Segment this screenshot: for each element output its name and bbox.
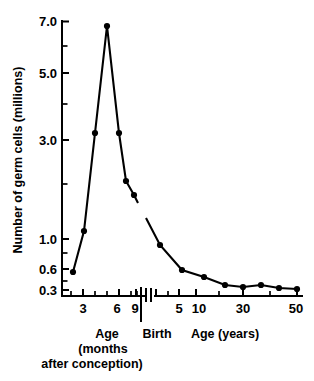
y-tick-label-0-3: 0.3 — [39, 283, 57, 298]
germ-cell-chart-figure: 7.0 5.0 3.0 1.0 0.6 0.3 Number of germ c… — [0, 0, 314, 381]
data-point-17-years — [222, 282, 228, 288]
data-point-6-months — [116, 130, 122, 136]
data-point-birth-years — [157, 242, 163, 248]
data-point-29-years — [258, 282, 264, 288]
data-point-7-months — [123, 178, 129, 184]
x-tick-label-50-years: 50 — [289, 301, 303, 316]
y-tick-label-1-0: 1.0 — [39, 232, 57, 247]
caption-age-months-line1: Age — [95, 327, 119, 341]
y-axis-title: Number of germ cells (millions) — [11, 67, 25, 254]
x-tick-label-30-years: 30 — [236, 301, 250, 316]
data-point-8-months — [131, 192, 137, 198]
y-tick-label-0-6: 0.6 — [39, 262, 57, 277]
x-tick-label-9-months: 9 — [131, 301, 138, 316]
data-point-50-years — [294, 286, 300, 292]
caption-age-years: Age (years) — [191, 327, 259, 341]
x-tick-label-10-years: 10 — [192, 301, 206, 316]
data-point-5-months — [104, 23, 110, 29]
y-tick-label-3-0: 3.0 — [39, 133, 57, 148]
chart-canvas: 7.0 5.0 3.0 1.0 0.6 0.3 Number of germ c… — [0, 0, 314, 381]
x-axis: 3 6 9 5 10 30 50 — [62, 287, 303, 322]
fetal-curve-line — [73, 26, 138, 272]
series-postnatal-germ-cells — [146, 218, 300, 292]
data-point-3-months — [81, 228, 87, 234]
x-tick-label-3-months: 3 — [79, 301, 86, 316]
x-tick-label-5-years: 5 — [175, 301, 182, 316]
data-point-24-years — [240, 284, 246, 290]
data-point-4-months — [92, 130, 98, 136]
series-fetal-germ-cells — [70, 23, 138, 275]
data-point-34-years — [276, 285, 282, 291]
x-tick-label-6-months: 6 — [113, 301, 120, 316]
postnatal-curve-line — [146, 218, 297, 289]
y-tick-label-5-0: 5.0 — [39, 66, 57, 81]
caption-birth: Birth — [142, 327, 171, 341]
y-axis: 7.0 5.0 3.0 1.0 0.6 0.3 Number of germ c… — [11, 14, 69, 298]
y-tick-label-7-0: 7.0 — [39, 14, 57, 29]
data-point-2-months — [70, 269, 76, 275]
caption-age-months-line2: (months — [78, 342, 127, 356]
caption-age-months-line3: after conception) — [41, 357, 142, 371]
data-point-7-years — [179, 267, 185, 273]
x-axis-captions: Age (months after conception) Birth Age … — [41, 327, 259, 371]
data-point-12-years — [201, 274, 207, 280]
